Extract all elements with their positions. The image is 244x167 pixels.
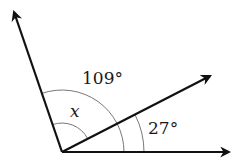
label-27: 27° [148, 120, 178, 137]
angle-diagram: 109° 27° x [0, 0, 244, 167]
label-109: 109° [82, 70, 123, 87]
label-x: x [70, 103, 80, 120]
arc-109 [42, 90, 124, 152]
arc-x [53, 123, 88, 139]
arc-27 [135, 115, 144, 152]
upper-ray [14, 12, 62, 152]
